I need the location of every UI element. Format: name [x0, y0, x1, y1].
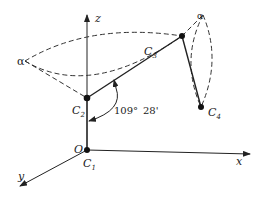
- angle-arrow-up: [114, 80, 116, 88]
- left-lens-lower: [25, 36, 182, 76]
- atom-c4: [198, 104, 204, 110]
- atom-c1: [84, 147, 90, 153]
- c4-label: C4: [208, 106, 221, 121]
- left-lens-to-c2: [25, 61, 87, 98]
- z-label: z: [94, 12, 101, 25]
- y-label: y: [17, 170, 25, 183]
- atom-c3: [179, 33, 185, 39]
- c3-label: C3: [144, 45, 157, 60]
- angle-degrees: 109°: [114, 105, 138, 116]
- alpha-right-label: α: [197, 11, 203, 21]
- c1-label: C1: [83, 157, 96, 172]
- c2-label: C2: [72, 104, 85, 119]
- carbon-chain-diagram: z x y O C1 C2 C3 C4 α α 109° 28': [0, 0, 271, 202]
- origin-label: O: [74, 143, 83, 156]
- left-lens-upper: [25, 32, 182, 61]
- bond-c3-c4: [182, 36, 201, 107]
- right-lens-right: [201, 15, 212, 107]
- x-axis: [87, 150, 250, 154]
- x-label: x: [236, 155, 243, 168]
- angle-minutes: 28': [143, 105, 158, 116]
- atom-c2: [84, 95, 91, 102]
- alpha-left-label: α: [17, 55, 25, 68]
- bond-c2-c3: [87, 36, 182, 98]
